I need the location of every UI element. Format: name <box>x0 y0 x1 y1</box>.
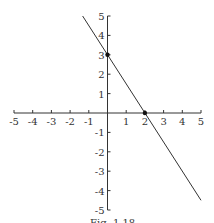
y-tick-label: -2 <box>95 147 105 158</box>
x-tick-label: -2 <box>65 116 75 127</box>
y-tick-label: -5 <box>95 205 105 216</box>
x-tick-label: 2 <box>142 116 148 127</box>
x-tick-label: -5 <box>9 116 19 127</box>
x-tick-label: -4 <box>28 116 38 127</box>
axes <box>14 16 201 210</box>
y-tick-label: 5 <box>98 11 104 22</box>
y-tick-label: 1 <box>98 89 104 100</box>
y-tick-label: -3 <box>95 166 105 177</box>
y-tick-label: 3 <box>98 50 104 61</box>
x-tick-label: 5 <box>198 116 204 127</box>
tick-labels: -5-4-3-2-11234554321-1-2-3-4-5Fig. 1.18 <box>9 11 204 223</box>
x-tick-label: -3 <box>47 116 57 127</box>
chart: -5-4-3-2-11234554321-1-2-3-4-5Fig. 1.18 <box>0 0 214 223</box>
y-tick-label: 2 <box>98 69 104 80</box>
figure-caption: Fig. 1.18 <box>90 217 135 223</box>
y-tick-label: -4 <box>95 186 105 197</box>
x-tick-label: -1 <box>84 116 94 127</box>
y-tick-label: 4 <box>98 30 104 41</box>
x-tick-label: 3 <box>160 116 166 127</box>
x-tick-label: 1 <box>123 116 129 127</box>
x-tick-label: 4 <box>179 116 185 127</box>
data-point <box>143 111 147 115</box>
y-tick-label: -1 <box>95 127 105 138</box>
data-point <box>105 53 109 57</box>
